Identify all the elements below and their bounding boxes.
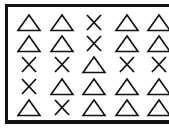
grid-cell [46,54,79,75]
triangle-icon [146,98,169,117]
cross-icon [81,13,107,32]
cross-icon [81,34,107,53]
triangle-icon [81,55,107,74]
grid-cell [143,12,169,33]
triangle-icon [114,34,140,53]
grid-cell [111,54,144,75]
triangle-icon [114,98,140,117]
triangle-icon [49,34,75,53]
grid-cell [78,54,111,75]
grid-cell [111,97,144,118]
cross-icon [16,77,42,96]
triangle-icon [49,77,75,96]
cross-icon [16,55,42,74]
triangle-icon [146,77,169,96]
cross-icon [114,55,140,74]
cross-icon [146,55,169,74]
grid-cell [111,33,144,54]
triangle-icon [114,77,140,96]
cross-icon [49,55,75,74]
grid-cell [46,76,79,97]
triangle-icon [81,98,107,117]
grid-cell [111,12,144,33]
grid-cell [13,33,46,54]
grid-cell [78,33,111,54]
triangle-icon [16,13,42,32]
triangle-icon [16,98,42,117]
grid-cell [143,76,169,97]
cross-icon [49,98,75,117]
triangle-icon [49,13,75,32]
triangle-icon [114,13,140,32]
grid-cell [78,97,111,118]
grid-cell [13,76,46,97]
grid-cell [13,97,46,118]
grid-cell [143,54,169,75]
triangle-icon [146,13,169,32]
grid-cell [78,76,111,97]
symbol-grid [13,12,169,118]
grid-cell [46,97,79,118]
triangle-icon [81,77,107,96]
grid-cell [13,12,46,33]
triangle-icon [146,34,169,53]
grid-cell [111,76,144,97]
grid-cell [78,12,111,33]
grid-cell [46,33,79,54]
grid-cell [143,33,169,54]
grid-cell [13,54,46,75]
triangle-icon [16,34,42,53]
grid-cell [46,12,79,33]
grid-cell [143,97,169,118]
